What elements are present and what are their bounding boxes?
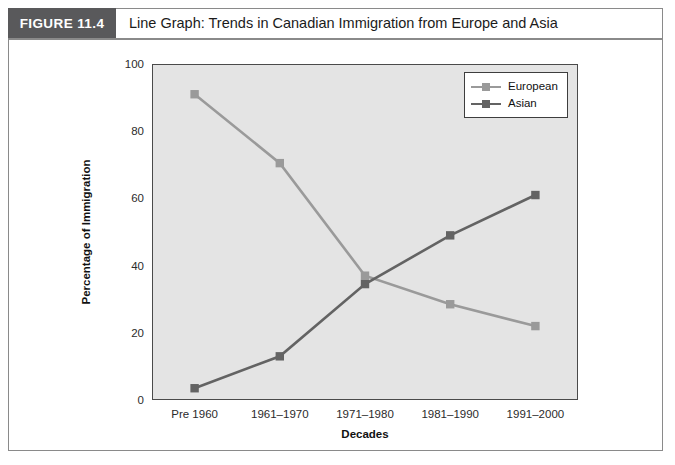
x-tick-label: 1981–1990 bbox=[421, 408, 479, 420]
x-tick-label: 1971–1980 bbox=[336, 408, 394, 420]
x-tick-label: Pre 1960 bbox=[171, 408, 218, 420]
legend-item-asian: Asian bbox=[471, 95, 558, 112]
legend-label-asian: Asian bbox=[508, 98, 537, 110]
chart-legend: European Asian bbox=[464, 72, 568, 118]
y-tick-label: 20 bbox=[104, 327, 144, 339]
x-tick-label: 1991–2000 bbox=[507, 408, 565, 420]
figure-root: FIGURE 11.4 Line Graph: Trends in Canadi… bbox=[0, 0, 675, 465]
legend-swatch-asian-icon bbox=[471, 99, 501, 109]
y-tick-label: 80 bbox=[104, 125, 144, 137]
x-axis-label: Decades bbox=[341, 428, 388, 440]
y-tick-label: 100 bbox=[104, 58, 144, 70]
legend-label-european: European bbox=[508, 81, 558, 93]
y-tick-label: 0 bbox=[104, 394, 144, 406]
y-axis-label: Percentage of Immigration bbox=[80, 159, 92, 304]
chart-area: Percentage of Immigration 020406080100 P… bbox=[0, 0, 675, 465]
y-tick-label: 40 bbox=[104, 260, 144, 272]
legend-item-european: European bbox=[471, 78, 558, 95]
x-tick-label: 1961–1970 bbox=[251, 408, 309, 420]
y-tick-label: 60 bbox=[104, 192, 144, 204]
legend-swatch-european-icon bbox=[471, 82, 501, 92]
